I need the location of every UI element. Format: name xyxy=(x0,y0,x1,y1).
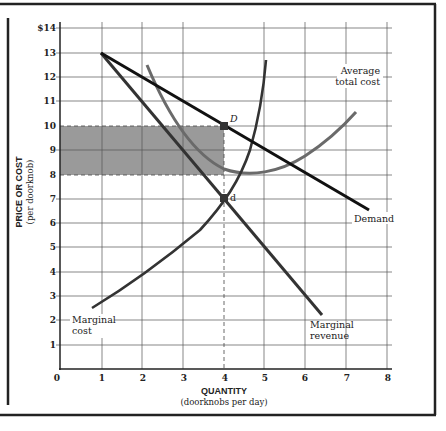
svg-text:0: 0 xyxy=(54,373,60,383)
y-tick-labels: $14 13 12 11 10 9 8 7 6 5 4 3 2 1 xyxy=(37,23,56,350)
mc-label-1: Marginal xyxy=(72,314,116,325)
y-axis-subtitle: (per doorknob) xyxy=(25,160,35,225)
svg-text:3: 3 xyxy=(181,373,187,383)
svg-text:7: 7 xyxy=(344,373,350,383)
svg-text:11: 11 xyxy=(43,96,56,106)
y-axis-title: PRICE OR COST xyxy=(14,156,24,228)
svg-text:2: 2 xyxy=(50,315,56,325)
svg-text:8: 8 xyxy=(50,170,56,180)
svg-text:12: 12 xyxy=(43,72,56,82)
mr-label-2: revenue xyxy=(310,330,349,341)
point-D-marker xyxy=(220,122,228,130)
chart: $14 13 12 11 10 9 8 7 6 5 4 3 2 1 0 1 2 … xyxy=(0,0,446,431)
svg-text:6: 6 xyxy=(50,218,56,228)
demand-label: Demand xyxy=(354,213,394,224)
svg-text:2: 2 xyxy=(140,373,146,383)
svg-text:7: 7 xyxy=(50,194,56,204)
point-D-label: D xyxy=(229,113,238,124)
svg-text:$14: $14 xyxy=(37,23,56,33)
point-d-label: d xyxy=(230,192,236,203)
svg-text:13: 13 xyxy=(43,48,56,58)
svg-text:8: 8 xyxy=(385,373,391,383)
atc-label-2: total cost xyxy=(335,76,380,87)
atc-label-1: Average xyxy=(340,65,381,76)
svg-text:3: 3 xyxy=(50,291,56,301)
marginal-revenue-curve xyxy=(101,53,322,315)
svg-text:9: 9 xyxy=(50,145,56,155)
x-axis-subtitle: (doorknobs per day) xyxy=(180,397,267,407)
svg-text:5: 5 xyxy=(50,242,56,252)
svg-text:1: 1 xyxy=(50,340,56,350)
x-axis-title: QUANTITY xyxy=(201,386,247,396)
point-d-marker xyxy=(220,194,228,202)
svg-text:6: 6 xyxy=(302,373,308,383)
mr-label-1: Marginal xyxy=(310,319,354,330)
mc-label-2: cost xyxy=(72,325,92,336)
svg-text:4: 4 xyxy=(222,373,228,383)
svg-text:5: 5 xyxy=(262,373,268,383)
x-tick-labels: 0 1 2 3 4 5 6 7 8 xyxy=(54,373,391,383)
svg-text:1: 1 xyxy=(99,373,105,383)
svg-text:4: 4 xyxy=(50,267,56,277)
svg-text:10: 10 xyxy=(43,121,56,131)
